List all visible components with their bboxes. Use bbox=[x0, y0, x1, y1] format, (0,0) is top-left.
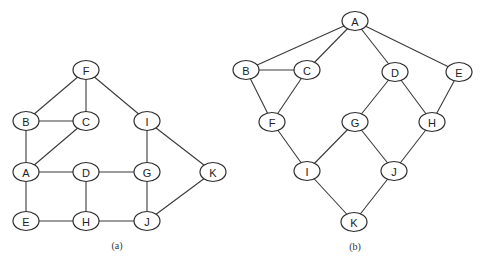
node-E: E bbox=[13, 212, 39, 231]
edge-K-J bbox=[147, 172, 213, 221]
node-label: E bbox=[455, 67, 462, 79]
graph-a: FBCIADGKEHJ (a) bbox=[13, 61, 226, 252]
graph-a-nodes: FBCIADGKEHJ bbox=[13, 61, 226, 231]
node-label: F bbox=[83, 65, 90, 77]
node-A: A bbox=[13, 163, 39, 182]
node-label: I bbox=[305, 166, 308, 178]
node-J: J bbox=[134, 212, 160, 231]
node-D: D bbox=[382, 63, 408, 82]
node-C: C bbox=[294, 61, 320, 80]
node-H: H bbox=[73, 212, 99, 231]
graph-a-caption: (a) bbox=[111, 240, 122, 252]
graph-b-caption: (b) bbox=[349, 241, 361, 253]
edge-C-A bbox=[26, 121, 86, 172]
node-label: J bbox=[391, 166, 397, 178]
edge-F-I bbox=[86, 70, 147, 121]
graph-diagram-canvas: FBCIADGKEHJ (a) ABCDEFGHIJK (b) bbox=[0, 0, 482, 266]
node-label: F bbox=[269, 117, 276, 129]
node-label: I bbox=[145, 116, 148, 128]
node-label: K bbox=[350, 217, 358, 229]
node-A: A bbox=[342, 12, 368, 31]
node-F: F bbox=[259, 113, 285, 132]
edge-I-K bbox=[147, 121, 213, 172]
node-D: D bbox=[73, 163, 99, 182]
node-label: H bbox=[428, 117, 436, 129]
node-label: C bbox=[82, 116, 90, 128]
node-G: G bbox=[342, 113, 368, 132]
node-label: B bbox=[22, 116, 29, 128]
node-label: A bbox=[22, 167, 30, 179]
node-I: I bbox=[134, 112, 160, 131]
node-label: G bbox=[351, 117, 360, 129]
edge-A-E bbox=[355, 21, 459, 72]
node-F: F bbox=[73, 61, 99, 80]
node-label: H bbox=[82, 216, 90, 228]
graph-a-edges bbox=[26, 70, 213, 221]
node-J: J bbox=[381, 162, 407, 181]
node-label: K bbox=[209, 167, 217, 179]
graph-b-nodes: ABCDEFGHIJK bbox=[233, 12, 472, 232]
node-label: D bbox=[391, 67, 399, 79]
node-label: J bbox=[144, 216, 150, 228]
node-label: A bbox=[351, 16, 359, 28]
node-label: C bbox=[303, 65, 311, 77]
graph-b: ABCDEFGHIJK (b) bbox=[233, 12, 472, 253]
edge-F-B bbox=[26, 70, 86, 121]
node-K: K bbox=[341, 213, 367, 232]
node-G: G bbox=[134, 163, 160, 182]
node-B: B bbox=[233, 61, 259, 80]
node-label: D bbox=[82, 167, 90, 179]
node-label: E bbox=[22, 216, 29, 228]
node-label: B bbox=[242, 65, 249, 77]
node-K: K bbox=[200, 163, 226, 182]
node-C: C bbox=[73, 112, 99, 131]
node-I: I bbox=[294, 162, 320, 181]
node-label: G bbox=[143, 167, 152, 179]
node-E: E bbox=[446, 63, 472, 82]
node-B: B bbox=[13, 112, 39, 131]
node-H: H bbox=[419, 113, 445, 132]
